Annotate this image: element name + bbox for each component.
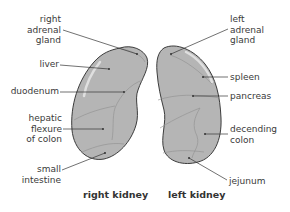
label-small-intestine: small intestine [22,164,61,185]
label-line: liver [39,59,59,70]
label-line: flexure [26,124,62,135]
label-line: gland [27,35,61,46]
label-descending-colon: decending colon [230,124,277,145]
label-line: decending [230,124,277,135]
label-duodenum: duodenum [11,86,59,97]
label-line: small [22,164,61,175]
caption-right-kidney: right kidney [83,189,148,200]
caption-left-kidney: left kidney [168,189,225,200]
label-line: jejunum [229,176,265,187]
label-line: colon [230,135,277,146]
label-hepatic-flexure: hepatic flexure of colon [26,113,62,145]
label-line: intestine [22,175,61,186]
label-liver: liver [39,59,59,70]
label-line: right [27,14,61,25]
left-kidney-shape [157,29,228,180]
label-right-adrenal-gland: right adrenal gland [27,14,61,46]
right-kidney-shape [60,30,148,170]
label-jejunum: jejunum [229,176,265,187]
label-line: adrenal [230,25,264,36]
label-spleen: spleen [230,72,260,83]
label-left-adrenal-gland: left adrenal gland [230,14,264,46]
label-line: gland [230,35,264,46]
label-line: of colon [26,134,62,145]
label-line: hepatic [26,113,62,124]
label-line: pancreas [230,91,271,102]
label-line: adrenal [27,25,61,36]
label-pancreas: pancreas [230,91,271,102]
label-line: left [230,14,264,25]
label-line: spleen [230,72,260,83]
label-line: duodenum [11,86,59,97]
